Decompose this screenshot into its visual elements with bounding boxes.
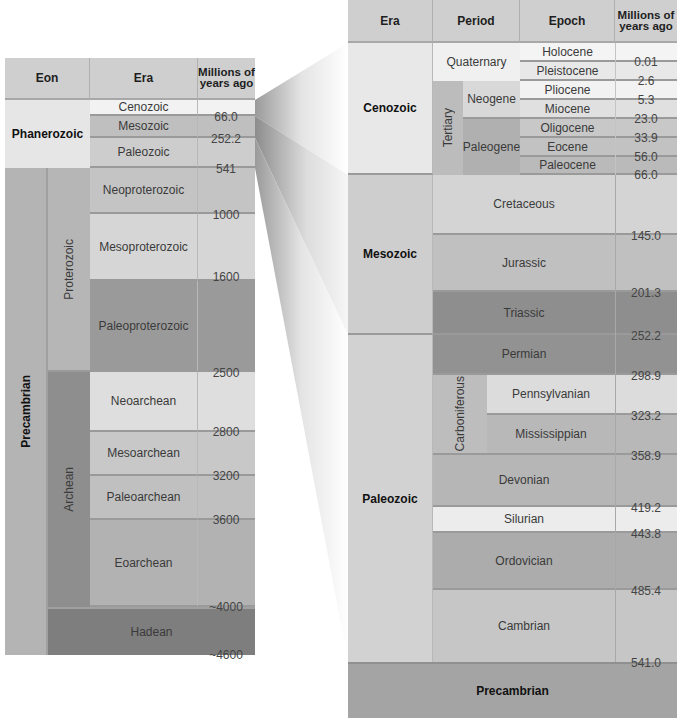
age-label: 541 bbox=[196, 162, 256, 176]
age-label: 541.0 bbox=[616, 656, 676, 670]
age-label: 66.0 bbox=[616, 168, 676, 182]
header-epoch: Epoch bbox=[520, 0, 615, 43]
period-quaternary: Quaternary bbox=[433, 43, 520, 81]
age-label: 485.4 bbox=[616, 584, 676, 598]
era-paleoproterozoic: Paleoproterozoic bbox=[90, 281, 198, 372]
period-carboniferous: Carboniferous bbox=[433, 375, 487, 455]
age-cell bbox=[198, 281, 255, 372]
age-label: 66.0 bbox=[196, 110, 256, 124]
age-label: 33.9 bbox=[616, 131, 676, 145]
age-label: 323.2 bbox=[616, 409, 676, 423]
period-cambrian: Cambrian bbox=[433, 590, 677, 662]
age-label: 419.2 bbox=[616, 501, 676, 515]
eon-archean: Archean bbox=[48, 372, 90, 607]
age-label: 0.01 bbox=[616, 55, 676, 69]
age-label: 252.2 bbox=[616, 329, 676, 343]
header-millions-years: Millions of years ago bbox=[615, 0, 677, 43]
age-label: 3600 bbox=[196, 513, 256, 527]
age-label: 2.6 bbox=[616, 74, 676, 88]
age-label: 2800 bbox=[196, 425, 256, 439]
age-label: 358.9 bbox=[616, 449, 676, 463]
age-label: 145.0 bbox=[616, 229, 676, 243]
era-mesoproterozoic: Mesoproterozoic bbox=[90, 214, 198, 281]
period-paleogene: Paleogene bbox=[463, 119, 520, 175]
age-label: 5.3 bbox=[616, 93, 676, 107]
era-paleoarchean: Paleoarchean bbox=[90, 476, 198, 520]
era-paleozoic: Paleozoic bbox=[348, 335, 433, 662]
era-precambrian: Precambrian bbox=[348, 662, 677, 718]
era-neoproterozoic: Neoproterozoic bbox=[90, 168, 198, 214]
age-label: 298.9 bbox=[616, 369, 676, 383]
eon-precambrian: Precambrian bbox=[5, 168, 48, 655]
eon-proterozoic: Proterozoic bbox=[48, 168, 90, 372]
age-label: ~4000 bbox=[196, 600, 256, 614]
header-era: Era bbox=[348, 0, 433, 43]
age-cell bbox=[198, 372, 255, 432]
period-cretaceous: Cretaceous bbox=[433, 175, 677, 235]
era-mesoarchean: Mesoarchean bbox=[90, 432, 198, 476]
era-cenozoic: Cenozoic bbox=[348, 43, 433, 175]
age-label: 23.0 bbox=[616, 112, 676, 126]
era-paleozoic: Paleozoic bbox=[90, 138, 198, 168]
period-ordovician: Ordovician bbox=[433, 533, 677, 590]
era-neoarchean: Neoarchean bbox=[90, 372, 198, 432]
age-label: 201.3 bbox=[616, 286, 676, 300]
age-label: 443.8 bbox=[616, 527, 676, 541]
age-label: 252.2 bbox=[196, 132, 256, 146]
era-mesozoic: Mesozoic bbox=[348, 175, 433, 335]
period-tertiary: Tertiary bbox=[433, 81, 463, 175]
eon-phanerozoic: Phanerozoic bbox=[5, 100, 90, 168]
header-period: Period bbox=[433, 0, 520, 43]
header-millions-years: Millions of years ago bbox=[198, 58, 255, 100]
period-jurassic: Jurassic bbox=[433, 235, 677, 292]
age-label: 2500 bbox=[196, 366, 256, 380]
era-mesozoic: Mesozoic bbox=[90, 116, 198, 138]
age-cell bbox=[198, 520, 255, 607]
era-eoarchean: Eoarchean bbox=[90, 520, 198, 607]
header-eon: Eon bbox=[5, 58, 90, 100]
age-label: ~4600 bbox=[196, 648, 256, 662]
age-label: 56.0 bbox=[616, 150, 676, 164]
age-label: 3200 bbox=[196, 469, 256, 483]
age-label: 1000 bbox=[196, 208, 256, 222]
age-label: 1600 bbox=[196, 270, 256, 284]
period-neogene: Neogene bbox=[463, 81, 520, 119]
era-cenozoic: Cenozoic bbox=[90, 100, 198, 116]
header-era: Era bbox=[90, 58, 198, 100]
